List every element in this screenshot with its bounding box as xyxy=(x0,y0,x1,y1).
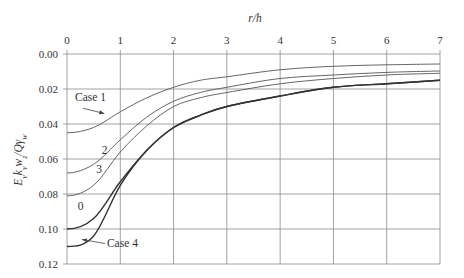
y-tick-label: 0.06 xyxy=(39,153,59,165)
chart-canvas: r/h 01234567 0.000.020.040.060.080.100.1… xyxy=(0,0,464,278)
y-axis-title: Evkvwz/Qγw xyxy=(12,134,29,187)
x-tick-label: 4 xyxy=(277,34,283,46)
series-case-4 xyxy=(67,80,440,246)
x-axis-ticks: 01234567 xyxy=(64,34,443,46)
x-tick-label: 3 xyxy=(224,34,230,46)
y-tick-label: 0.04 xyxy=(39,118,59,130)
series-0 xyxy=(67,80,440,229)
label-case-4: Case 4 xyxy=(107,237,138,249)
series-2 xyxy=(67,71,440,173)
x-tick-label: 0 xyxy=(64,34,70,46)
y-tick-label: 0.08 xyxy=(39,188,59,200)
x-axis-title: r/h xyxy=(248,12,262,24)
x-tick-label: 6 xyxy=(384,34,390,46)
x-tick-label: 2 xyxy=(171,34,177,46)
label-0: 0 xyxy=(78,200,84,212)
data-series xyxy=(67,64,440,247)
y-tick-label: 0.10 xyxy=(39,223,59,235)
y-axis-title-text: Evkvwz/Qγw xyxy=(12,134,29,187)
y-tick-label: 0.12 xyxy=(39,258,58,270)
arrow-head-icon xyxy=(82,238,87,242)
series-case-1 xyxy=(67,64,440,133)
label-2: 2 xyxy=(102,144,108,156)
y-tick-label: 0.02 xyxy=(39,83,58,95)
x-tick-label: 5 xyxy=(331,34,337,46)
y-axis-ticks: 0.000.020.040.060.080.100.12 xyxy=(39,48,59,270)
x-tick-label: 7 xyxy=(437,34,443,46)
label-3: 3 xyxy=(96,163,102,175)
y-tick-label: 0.00 xyxy=(39,48,59,60)
x-tick-label: 1 xyxy=(118,34,124,46)
grid xyxy=(63,50,440,264)
label-case-1: Case 1 xyxy=(75,91,106,103)
